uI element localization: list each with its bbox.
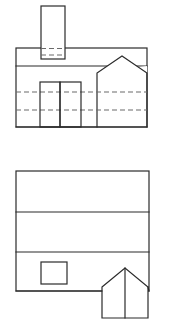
upper-elevation-view — [16, 6, 147, 127]
architectural-drawing-canvas — [0, 0, 170, 332]
drawing-sheet: Building Elevation and Plan Line Drawing — [0, 0, 170, 332]
square-roof-opening — [41, 262, 67, 284]
lower-plan-view — [16, 171, 149, 318]
tower-outline — [41, 6, 65, 59]
